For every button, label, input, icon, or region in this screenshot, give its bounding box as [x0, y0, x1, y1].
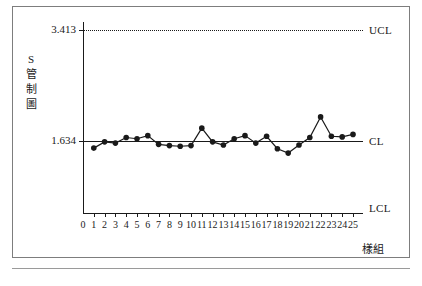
- data-point: [318, 114, 324, 120]
- x-tick-label: 22: [316, 219, 326, 230]
- x-tick-label: 4: [124, 219, 129, 230]
- x-tick-mark: [310, 213, 311, 217]
- x-tick-mark: [159, 213, 160, 217]
- x-tick-label: 6: [145, 219, 150, 230]
- x-tick-mark: [256, 213, 257, 217]
- data-point: [242, 133, 248, 139]
- x-tick-label: 11: [197, 219, 207, 230]
- data-point: [113, 140, 119, 146]
- x-tick-mark: [213, 213, 214, 217]
- x-tick-label: 15: [240, 219, 250, 230]
- x-tick-mark: [331, 213, 332, 217]
- x-tick-label: 16: [251, 219, 261, 230]
- x-tick-mark: [115, 213, 116, 217]
- data-point: [156, 142, 162, 148]
- x-tick-label: 20: [294, 219, 304, 230]
- x-tick-label: 18: [272, 219, 282, 230]
- series-layer: [0, 0, 422, 286]
- x-tick-mark: [321, 213, 322, 217]
- x-tick-mark: [148, 213, 149, 217]
- x-tick-mark: [353, 213, 354, 217]
- x-tick-mark: [126, 213, 127, 217]
- x-tick-mark: [202, 213, 203, 217]
- x-tick-mark: [137, 213, 138, 217]
- x-tick-label: 13: [218, 219, 228, 230]
- x-tick-label: 24: [337, 219, 347, 230]
- data-point: [307, 135, 313, 141]
- x-tick-label: 19: [283, 219, 293, 230]
- x-tick-label: 5: [135, 219, 140, 230]
- x-tick-label: 0: [81, 219, 86, 230]
- data-point: [167, 143, 173, 149]
- x-tick-label: 2: [102, 219, 107, 230]
- data-point: [350, 132, 356, 138]
- x-tick-label: 14: [229, 219, 239, 230]
- x-tick-mark: [105, 213, 106, 217]
- x-tick-mark: [94, 213, 95, 217]
- x-tick-label: 1: [91, 219, 96, 230]
- x-tick-label: 12: [208, 219, 218, 230]
- data-point: [264, 133, 270, 139]
- data-point: [210, 139, 216, 145]
- x-tick-mark: [299, 213, 300, 217]
- x-tick-mark: [180, 213, 181, 217]
- x-tick-mark: [223, 213, 224, 217]
- x-tick-labels: 0123456789101112131415161718192021222324…: [83, 219, 368, 233]
- data-point: [91, 145, 97, 151]
- x-tick-label: 3: [113, 219, 118, 230]
- data-point: [134, 136, 140, 142]
- data-point: [177, 143, 183, 149]
- data-point: [123, 135, 129, 141]
- data-point: [339, 134, 345, 140]
- x-tick-label: 9: [178, 219, 183, 230]
- series-points: [91, 114, 356, 156]
- data-point: [221, 142, 227, 148]
- data-point: [296, 142, 302, 148]
- x-tick-mark: [342, 213, 343, 217]
- data-point: [102, 139, 108, 145]
- data-point: [145, 133, 151, 139]
- data-point: [231, 136, 237, 142]
- x-tick-label: 25: [348, 219, 358, 230]
- x-tick-mark: [169, 213, 170, 217]
- x-tick-mark: [267, 213, 268, 217]
- x-tick-label: 8: [167, 219, 172, 230]
- x-tick-label: 21: [305, 219, 315, 230]
- x-tick-mark: [245, 213, 246, 217]
- x-tick-label: 17: [262, 219, 272, 230]
- x-tick-mark: [191, 213, 192, 217]
- x-tick-mark: [277, 213, 278, 217]
- data-point: [199, 125, 205, 131]
- data-point: [188, 143, 194, 149]
- data-point: [275, 146, 281, 152]
- x-tick-mark: [234, 213, 235, 217]
- x-tick-mark: [288, 213, 289, 217]
- x-tick-label: 10: [186, 219, 196, 230]
- x-tick-label: 23: [326, 219, 336, 230]
- data-point: [253, 140, 259, 146]
- data-point: [285, 150, 291, 156]
- x-tick-label: 7: [156, 219, 161, 230]
- chart-page: 3.413 1.634 UCL CL LCL S 管 制 圖 012345678…: [0, 0, 422, 286]
- data-point: [329, 133, 335, 139]
- x-axis-title: 樣組: [362, 240, 384, 256]
